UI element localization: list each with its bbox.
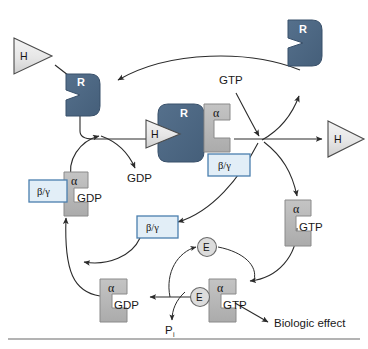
alpha-gtp-active-alpha: α <box>293 202 300 216</box>
receptor-unbound-left: R <box>66 74 100 116</box>
hormone-free-right-label: H <box>334 133 342 145</box>
hormone-bound-center-label: H <box>151 128 159 140</box>
arrow-receptor-recycle <box>118 56 300 80</box>
alpha-receptor-complex-label: α <box>213 106 220 120</box>
alpha-gtp-active: α GTP <box>285 200 323 246</box>
arrow-effector-up <box>169 247 196 297</box>
alpha-gtp-effector-alpha: α <box>217 281 224 295</box>
arrow-receptor-regenerate <box>262 96 299 140</box>
effector-alpha-gtp-complex: α GTP E <box>191 279 247 322</box>
beta-gamma-bound-left-label: β/γ <box>37 186 50 197</box>
receptor-unbound-left-label: R <box>77 76 85 88</box>
beta-gamma-released: β/γ <box>137 216 178 238</box>
arrow-pi-release <box>172 292 185 320</box>
effector-free-label: E <box>203 242 210 253</box>
heterotrimer-inactive: α GDP β/γ <box>29 172 102 216</box>
alpha-gtp-active-nucleotide: GTP <box>299 221 323 233</box>
receptor-hormone-g-protein-complex: R H α β/γ <box>146 104 250 176</box>
alpha-gdp-hydrolyzed-nucleotide: GDP <box>114 299 139 311</box>
arrow-receptor-to-complex <box>80 116 152 139</box>
arrow-gtp-entry <box>236 93 259 136</box>
receptor-recycled-right-label: R <box>299 23 307 35</box>
beta-gamma-center-label: β/γ <box>218 160 231 171</box>
alpha-gdp-hydrolyzed: α GDP <box>100 279 139 322</box>
phosphate-label: P <box>165 324 173 336</box>
hormone-free-left-label: H <box>20 50 28 62</box>
alpha-gdp-heterotrimer-nucleotide: GDP <box>77 192 102 204</box>
diagram-canvas: H R R R H α β/γ <box>0 0 368 349</box>
beta-gamma-released-label: β/γ <box>146 222 159 233</box>
arrow-gdp-release <box>101 136 135 168</box>
alpha-gtp-effector-nucleotide: GTP <box>223 299 247 311</box>
hormone-free-left: H <box>14 38 52 74</box>
arrow-effector-loop-return <box>218 247 255 280</box>
effector-bound-label: E <box>196 292 203 303</box>
hormone-free-right: H <box>328 121 364 157</box>
receptor-recycled-right: R <box>288 20 322 66</box>
alpha-gdp-hydrolyzed-alpha: α <box>108 281 115 295</box>
arrow-alpha-gdp-recycle <box>66 218 100 296</box>
phosphate-subscript-label: i <box>173 331 175 338</box>
g-protein-cycle-diagram: H R R R H α β/γ <box>0 0 368 349</box>
arrow-to-alpha-gtp <box>264 142 297 196</box>
alpha-gdp-heterotrimer-alpha: α <box>71 174 78 188</box>
biologic-effect-label: Biologic effect <box>274 317 346 329</box>
effector-free: E <box>198 238 217 257</box>
arrow-beta-gamma-reassoc <box>84 238 140 263</box>
gdp-output-label: GDP <box>127 172 152 184</box>
gtp-input-label: GTP <box>219 74 243 86</box>
receptor-bound-center-label: R <box>180 107 188 119</box>
